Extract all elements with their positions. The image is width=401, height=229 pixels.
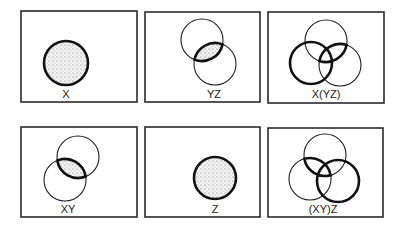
panel-xy-z: (XY)Z [268, 128, 383, 217]
panel-x-yz: X(YZ) [268, 12, 384, 103]
panel-z: Z [145, 127, 260, 217]
panel-label: (XY)Z [309, 203, 338, 215]
panel-label: YZ [207, 88, 221, 100]
panel-label: X [62, 88, 70, 100]
panel-xy: XY [21, 127, 137, 217]
panel-label: Z [212, 203, 219, 215]
venn-diagram-figure: XYZX(YZ)XYZ(XY)Z [0, 0, 401, 229]
panel-x: X [21, 11, 137, 102]
panel-label: XY [61, 203, 76, 215]
panel-yz: YZ [145, 12, 260, 102]
panel-label: X(YZ) [312, 88, 341, 100]
panels-group: XYZX(YZ)XYZ(XY)Z [21, 11, 384, 217]
